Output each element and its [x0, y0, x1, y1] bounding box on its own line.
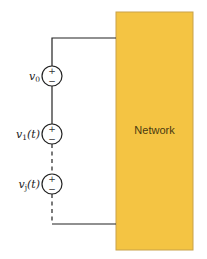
- voltage-source-vj: + − vj(t): [18, 174, 62, 194]
- plus-sign: +: [48, 124, 56, 134]
- source-label-v1: v1(t): [16, 128, 40, 142]
- top-wire: [52, 38, 116, 66]
- minus-sign: −: [48, 184, 56, 194]
- voltage-source-v1: + − v1(t): [16, 124, 62, 144]
- plus-sign: +: [48, 66, 56, 76]
- source-label-v0: v0: [29, 70, 40, 84]
- network-label: Network: [134, 124, 175, 136]
- plus-sign: +: [48, 174, 56, 184]
- minus-sign: −: [48, 76, 56, 86]
- source-label-vj: vj(t): [18, 178, 40, 192]
- voltage-source-v0: + − v0: [29, 66, 62, 86]
- circuit-diagram: Network + − v0 + − v1(t) + − vj(t): [0, 0, 207, 259]
- minus-sign: −: [48, 134, 56, 144]
